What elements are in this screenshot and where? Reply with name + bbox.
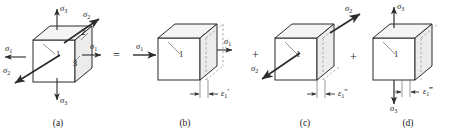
label-sigma-3-top-a: σ3 bbox=[60, 4, 67, 14]
face-number-1-c: 1 bbox=[296, 49, 300, 59]
label-sigma-3-top-d: σ3 bbox=[397, 2, 404, 12]
cube-d bbox=[373, 24, 438, 80]
label-epsilon-1-double-prime-c: ε1″ bbox=[338, 88, 348, 99]
label-epsilon-1-prime-b: ε1′ bbox=[221, 88, 229, 99]
operator-equals: = bbox=[113, 48, 120, 63]
label-sigma-3-bottom-d: σ3 bbox=[390, 104, 397, 114]
panel-b bbox=[133, 24, 232, 98]
caption-a: (a) bbox=[40, 118, 76, 128]
label-sigma-2-upper-right-c: σ2 bbox=[345, 4, 352, 14]
face-number-1-a: 1 bbox=[56, 49, 60, 59]
label-sigma-2-lower-left-c: σ2 bbox=[251, 64, 258, 74]
face-number-1-d: 1 bbox=[394, 49, 398, 59]
operator-plus-1: + bbox=[252, 48, 259, 63]
label-sigma-1-right-a: σ1 bbox=[90, 42, 97, 52]
cube-b bbox=[158, 24, 223, 80]
label-sigma-1-right-b: σ1 bbox=[224, 37, 231, 47]
operator-plus-2: + bbox=[350, 50, 357, 65]
label-sigma-2-lower-left-a: σ2 bbox=[3, 66, 10, 76]
panel-c bbox=[262, 14, 360, 98]
panel-a bbox=[5, 9, 101, 100]
stress-superposition-figure bbox=[0, 0, 451, 135]
face-number-1-b: 1 bbox=[179, 49, 183, 59]
caption-b: (b) bbox=[167, 118, 203, 128]
caption-d: (d) bbox=[390, 118, 426, 128]
label-sigma-2-upper-right-a: σ2 bbox=[83, 10, 90, 20]
caption-c: (c) bbox=[287, 118, 323, 128]
label-sigma-1-left-b: σ1 bbox=[136, 42, 143, 52]
face-number-2-a: 2 bbox=[81, 27, 85, 37]
label-sigma-1-left-a: σ1 bbox=[5, 44, 12, 54]
label-epsilon-1-triple-prime-d: ε1‴ bbox=[423, 86, 433, 97]
label-sigma-3-bottom-a: σ3 bbox=[60, 96, 67, 106]
face-number-3-a: 3 bbox=[73, 58, 77, 68]
